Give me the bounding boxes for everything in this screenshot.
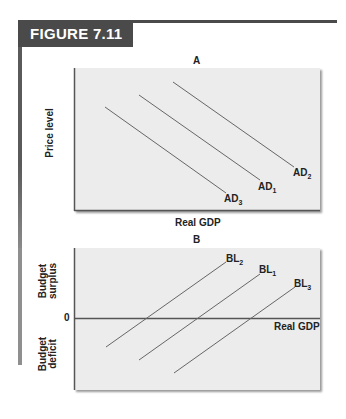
chart-lines xyxy=(0,0,346,419)
bl3-curve xyxy=(174,287,295,373)
ad1-curve xyxy=(139,95,260,180)
ad1-label: AD1 xyxy=(258,181,276,194)
ad3-label: AD3 xyxy=(224,193,242,206)
ad2-label: AD2 xyxy=(293,167,311,180)
bl2-curve xyxy=(106,262,226,347)
bl2-label: BL2 xyxy=(226,253,243,266)
ad2-curve xyxy=(173,82,294,167)
ad3-curve xyxy=(105,107,226,193)
bl3-label: BL3 xyxy=(294,278,311,291)
bl1-label: BL1 xyxy=(259,264,276,277)
bl1-curve xyxy=(139,274,260,360)
